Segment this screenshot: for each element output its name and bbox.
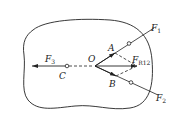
dashed-line-b-fr12 bbox=[116, 66, 137, 76]
force-f2-at-b-arrow bbox=[95, 66, 116, 76]
label-c: C bbox=[59, 72, 66, 81]
label-b: B bbox=[109, 80, 116, 89]
label-o: O bbox=[88, 55, 95, 64]
label-a: A bbox=[108, 44, 115, 53]
point-f1-marker bbox=[127, 42, 131, 46]
label-f1: F1 bbox=[151, 24, 161, 34]
label-f2: F2 bbox=[156, 94, 166, 104]
force-diagram: F1 A FR12 O F3 C B F2 bbox=[0, 0, 178, 131]
point-f2-marker bbox=[129, 81, 133, 85]
label-f3: F3 bbox=[45, 55, 55, 65]
label-fr12: FR12 bbox=[132, 56, 150, 66]
force-f1-at-a-arrow bbox=[95, 53, 115, 66]
point-c-marker bbox=[65, 64, 69, 68]
diagram-canvas bbox=[0, 0, 178, 131]
